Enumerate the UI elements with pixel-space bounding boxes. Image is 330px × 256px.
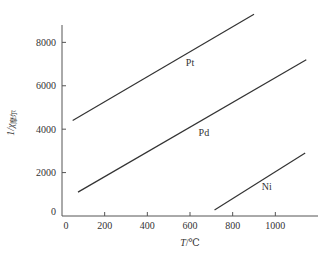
chart: 02004006008001000 02000400060008000 PtPd… <box>0 0 330 256</box>
x-tick-label: 0 <box>64 220 69 231</box>
x-tick-label: 600 <box>183 220 198 231</box>
axes <box>62 25 318 216</box>
x-tick-label: 400 <box>140 220 155 231</box>
series-label-ni: Ni <box>262 181 272 192</box>
series-line-ni <box>215 153 306 210</box>
y-axis-title-sub: 摩尔 <box>9 110 18 124</box>
series-label-pt: Pt <box>186 57 195 68</box>
y-tick-label: 0 <box>51 206 56 217</box>
series-line-pt <box>73 14 254 120</box>
x-tick-label: 800 <box>225 220 240 231</box>
y-axis-title-main: 1/χ <box>5 123 16 136</box>
y-tick-label: 4000 <box>36 124 56 135</box>
x-axis-title-unit: /℃ <box>186 237 200 248</box>
y-tick-label: 2000 <box>36 167 56 178</box>
x-tick-label: 1000 <box>265 220 285 231</box>
y-tick-label: 8000 <box>36 37 56 48</box>
series-group: PtPdNi <box>73 14 307 210</box>
y-axis-title: 1/χ摩尔 <box>5 110 18 136</box>
series-label-pd: Pd <box>199 127 210 138</box>
series-line-pd <box>78 60 306 192</box>
y-tick-label: 6000 <box>36 80 56 91</box>
x-axis-title: T/℃ <box>180 237 200 248</box>
x-ticks: 02004006008001000 <box>64 212 286 231</box>
x-tick-label: 200 <box>97 220 112 231</box>
